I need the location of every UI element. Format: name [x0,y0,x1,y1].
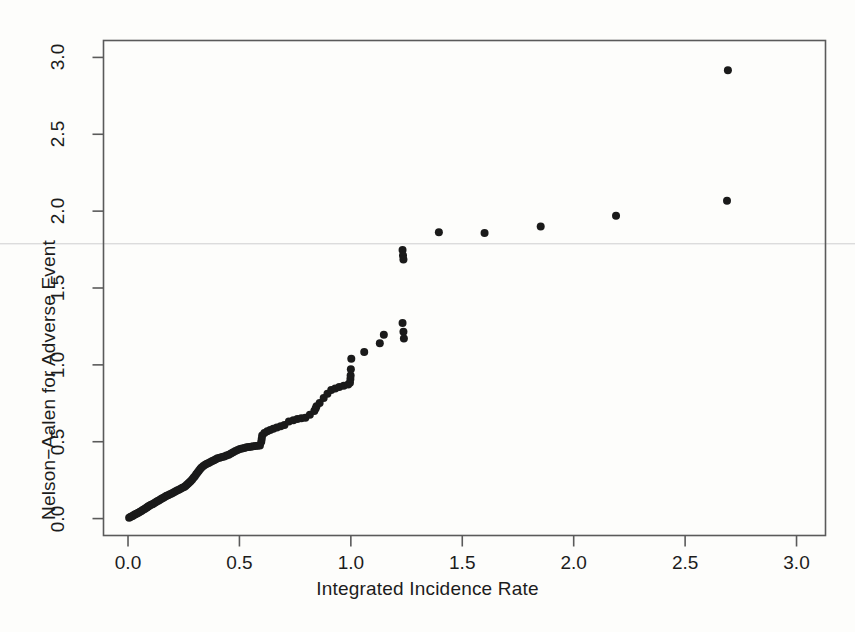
figure-canvas: 0.00.51.01.52.02.53.0 0.00.51.01.52.02.5… [0,0,855,632]
y-axis-ticks [93,57,104,518]
x-tick-label: 1.0 [321,552,381,574]
x-tick-label: 0.5 [209,552,269,574]
data-point [347,355,355,363]
data-point [376,339,384,347]
data-point [724,66,732,74]
data-point [537,223,545,231]
data-point [347,365,355,373]
x-tick-label: 2.5 [655,552,715,574]
x-axis-ticks [128,536,797,547]
y-axis-title: Nelson−Aalen for Adverse Event [38,240,60,520]
x-tick-label: 2.0 [544,552,604,574]
data-point [399,255,407,263]
x-axis-title: Integrated Incidence Rate [0,578,855,600]
y-tick-label: 2.0 [47,181,69,241]
data-point [399,319,407,327]
data-point [380,331,388,339]
y-tick-label: 2.5 [47,104,69,164]
data-point [612,212,620,220]
x-tick-label: 3.0 [767,552,827,574]
data-point [400,334,408,342]
data-point [481,229,489,237]
y-tick-label: 3.0 [47,27,69,87]
data-point [723,197,731,205]
x-tick-label: 1.5 [432,552,492,574]
data-point [360,348,368,356]
data-point [435,228,443,236]
scatter-plot [0,0,855,632]
x-tick-label: 0.0 [98,552,158,574]
data-points-group [125,66,732,522]
